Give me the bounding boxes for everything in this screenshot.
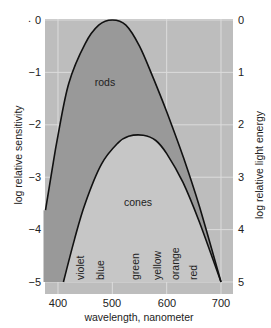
color-label-violet: violet xyxy=(74,255,86,280)
y-tick-left: −4 xyxy=(28,223,41,235)
x-tick: 700 xyxy=(212,297,230,309)
y-tick-left: 0 xyxy=(35,14,41,26)
y-tick-right: 0 xyxy=(238,14,244,26)
color-label-green: green xyxy=(129,253,141,280)
cones-label: cones xyxy=(124,196,152,208)
x-tick: 600 xyxy=(158,297,176,309)
x-axis-label: wavelength, nanometer xyxy=(83,311,194,323)
y-tick-right: 1 xyxy=(238,66,244,78)
x-tick: 500 xyxy=(103,297,121,309)
y-tick-right: 5 xyxy=(238,276,244,288)
y-tick-right: 4 xyxy=(238,223,244,235)
stray-mark: . xyxy=(28,12,31,24)
y-ticks-left: 0 −1 −2 −3 −4 −5 . xyxy=(28,12,41,288)
y-tick-left: −2 xyxy=(28,118,41,130)
y-tick-left: −5 xyxy=(28,276,41,288)
x-ticks: 400 500 600 700 xyxy=(49,297,230,309)
y-tick-left: −1 xyxy=(28,66,41,78)
color-label-red: red xyxy=(187,265,199,280)
color-label-blue: blue xyxy=(94,260,106,280)
y-ticks-right: 0 1 2 3 4 5 xyxy=(238,14,244,288)
y-tick-right: 2 xyxy=(238,118,244,130)
chart-svg: 0 −1 −2 −3 −4 −5 . 0 1 2 3 4 5 400 500 6… xyxy=(0,0,271,328)
color-label-orange: orange xyxy=(169,247,181,280)
y-tick-right: 3 xyxy=(238,171,244,183)
x-tick: 400 xyxy=(49,297,67,309)
color-label-yellow: yellow xyxy=(151,250,163,280)
y-axis-label-left: log relative sensitivity xyxy=(12,105,24,205)
y-axis-label-right: log relative light energy xyxy=(253,110,265,219)
rods-label: rods xyxy=(95,76,115,88)
y-tick-left: −3 xyxy=(28,171,41,183)
